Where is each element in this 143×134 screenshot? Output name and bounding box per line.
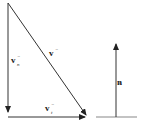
label-normal-n-hat: ^ n bbox=[117, 77, 122, 88]
velocity-decomposition-diagram: v − n v − v − t ^ n bbox=[0, 0, 143, 134]
svg-text:v: v bbox=[49, 48, 54, 58]
svg-text:−: − bbox=[17, 54, 20, 59]
svg-text:v: v bbox=[45, 103, 50, 113]
svg-text:−: − bbox=[51, 102, 54, 107]
svg-text:−: − bbox=[55, 47, 58, 52]
svg-text:t: t bbox=[51, 110, 53, 115]
svg-text:v: v bbox=[11, 55, 16, 65]
label-v-normal: v − n bbox=[11, 54, 20, 67]
svg-text:n: n bbox=[17, 62, 20, 67]
label-v-tangent: v − t bbox=[45, 102, 54, 115]
label-v-total: v − bbox=[49, 47, 58, 58]
v-total-vector bbox=[8, 3, 86, 115]
svg-text:n: n bbox=[117, 77, 122, 87]
